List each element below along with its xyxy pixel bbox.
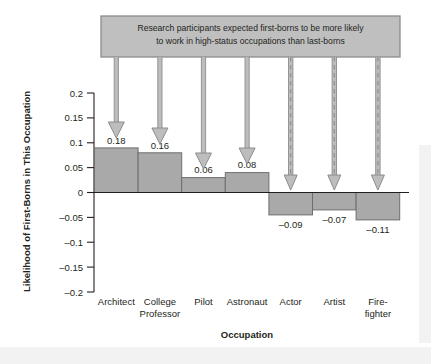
arrow-down-icon-architect — [108, 57, 124, 138]
chart-figure: Likelihood of First-Borns in This Occupa… — [0, 0, 431, 364]
arrow-down-icon-astronaut — [239, 57, 255, 164]
x-axis-labels: Architect College Professor Pilot Astron… — [98, 296, 391, 319]
x-axis-title: Occupation — [221, 329, 273, 340]
bar-pilot — [182, 178, 226, 193]
y-tick: 0.05 — [65, 162, 95, 173]
y-tick: 0 — [78, 187, 94, 198]
x-label-artist: Artist — [323, 296, 345, 307]
y-tick-label: 0 — [78, 187, 83, 198]
annotation-line-1: Research participants expected first-bor… — [138, 23, 365, 33]
x-label-architect: Architect — [98, 296, 135, 307]
x-label-astronaut: Astronaut — [227, 296, 268, 307]
arrow-down-icon-pilot — [196, 57, 212, 169]
y-tick-label: –0.2 — [65, 287, 84, 298]
y-tick-label: –0.05 — [59, 212, 83, 223]
y-axis-title: Likelihood of First-Borns in This Occupa… — [21, 91, 32, 292]
y-tick-label: –0.15 — [59, 262, 83, 273]
y-tick-label: 0.1 — [70, 137, 83, 148]
y-axis-ticks: 0.2 0.15 0.1 0.05 0 –0.05 — [59, 88, 94, 298]
x-label-professor: Professor — [140, 308, 181, 319]
bar-astronaut — [225, 173, 269, 193]
y-tick-label: 0.05 — [65, 162, 84, 173]
x-label-pilot: Pilot — [194, 296, 213, 307]
y-tick: –0.15 — [59, 262, 94, 273]
y-tick: 0.1 — [70, 137, 94, 148]
y-tick: 0.15 — [65, 112, 95, 123]
bar-college-professor — [138, 153, 182, 193]
bar-architect — [95, 148, 139, 193]
arrow-down-icon-artist — [328, 57, 341, 190]
arrow-down-icon-actor — [284, 57, 297, 190]
page-edge-panel-bottom — [0, 347, 431, 364]
x-label-fighter: fighter — [365, 308, 391, 319]
page-edge-panel-right — [419, 145, 431, 343]
y-tick: –0.1 — [65, 237, 95, 248]
x-label-college: College — [144, 296, 176, 307]
y-tick: 0.2 — [70, 88, 94, 99]
y-tick-label: –0.1 — [65, 237, 84, 248]
y-tick-label: 0.2 — [70, 88, 83, 99]
value-label-actor: –0.09 — [279, 219, 303, 230]
bar-chart: Likelihood of First-Borns in This Occupa… — [0, 0, 431, 364]
x-label-fire: Fire- — [368, 296, 388, 307]
bar-firefighter — [356, 193, 400, 220]
bar-artist — [313, 193, 357, 210]
arrow-down-icon-college-professor — [152, 57, 168, 144]
x-label-actor: Actor — [280, 296, 302, 307]
value-label-artist: –0.07 — [322, 214, 346, 225]
arrow-down-icon-firefighter — [371, 57, 384, 190]
y-tick: –0.2 — [65, 287, 95, 298]
value-label-firefighter: –0.11 — [366, 224, 389, 235]
bar-actor — [269, 193, 313, 215]
annotation-line-2: to work in high-status occupations than … — [156, 36, 345, 46]
y-tick-label: 0.15 — [65, 112, 84, 123]
y-tick: –0.05 — [59, 212, 94, 223]
annotation-callout: Research participants expected first-bor… — [101, 16, 400, 57]
